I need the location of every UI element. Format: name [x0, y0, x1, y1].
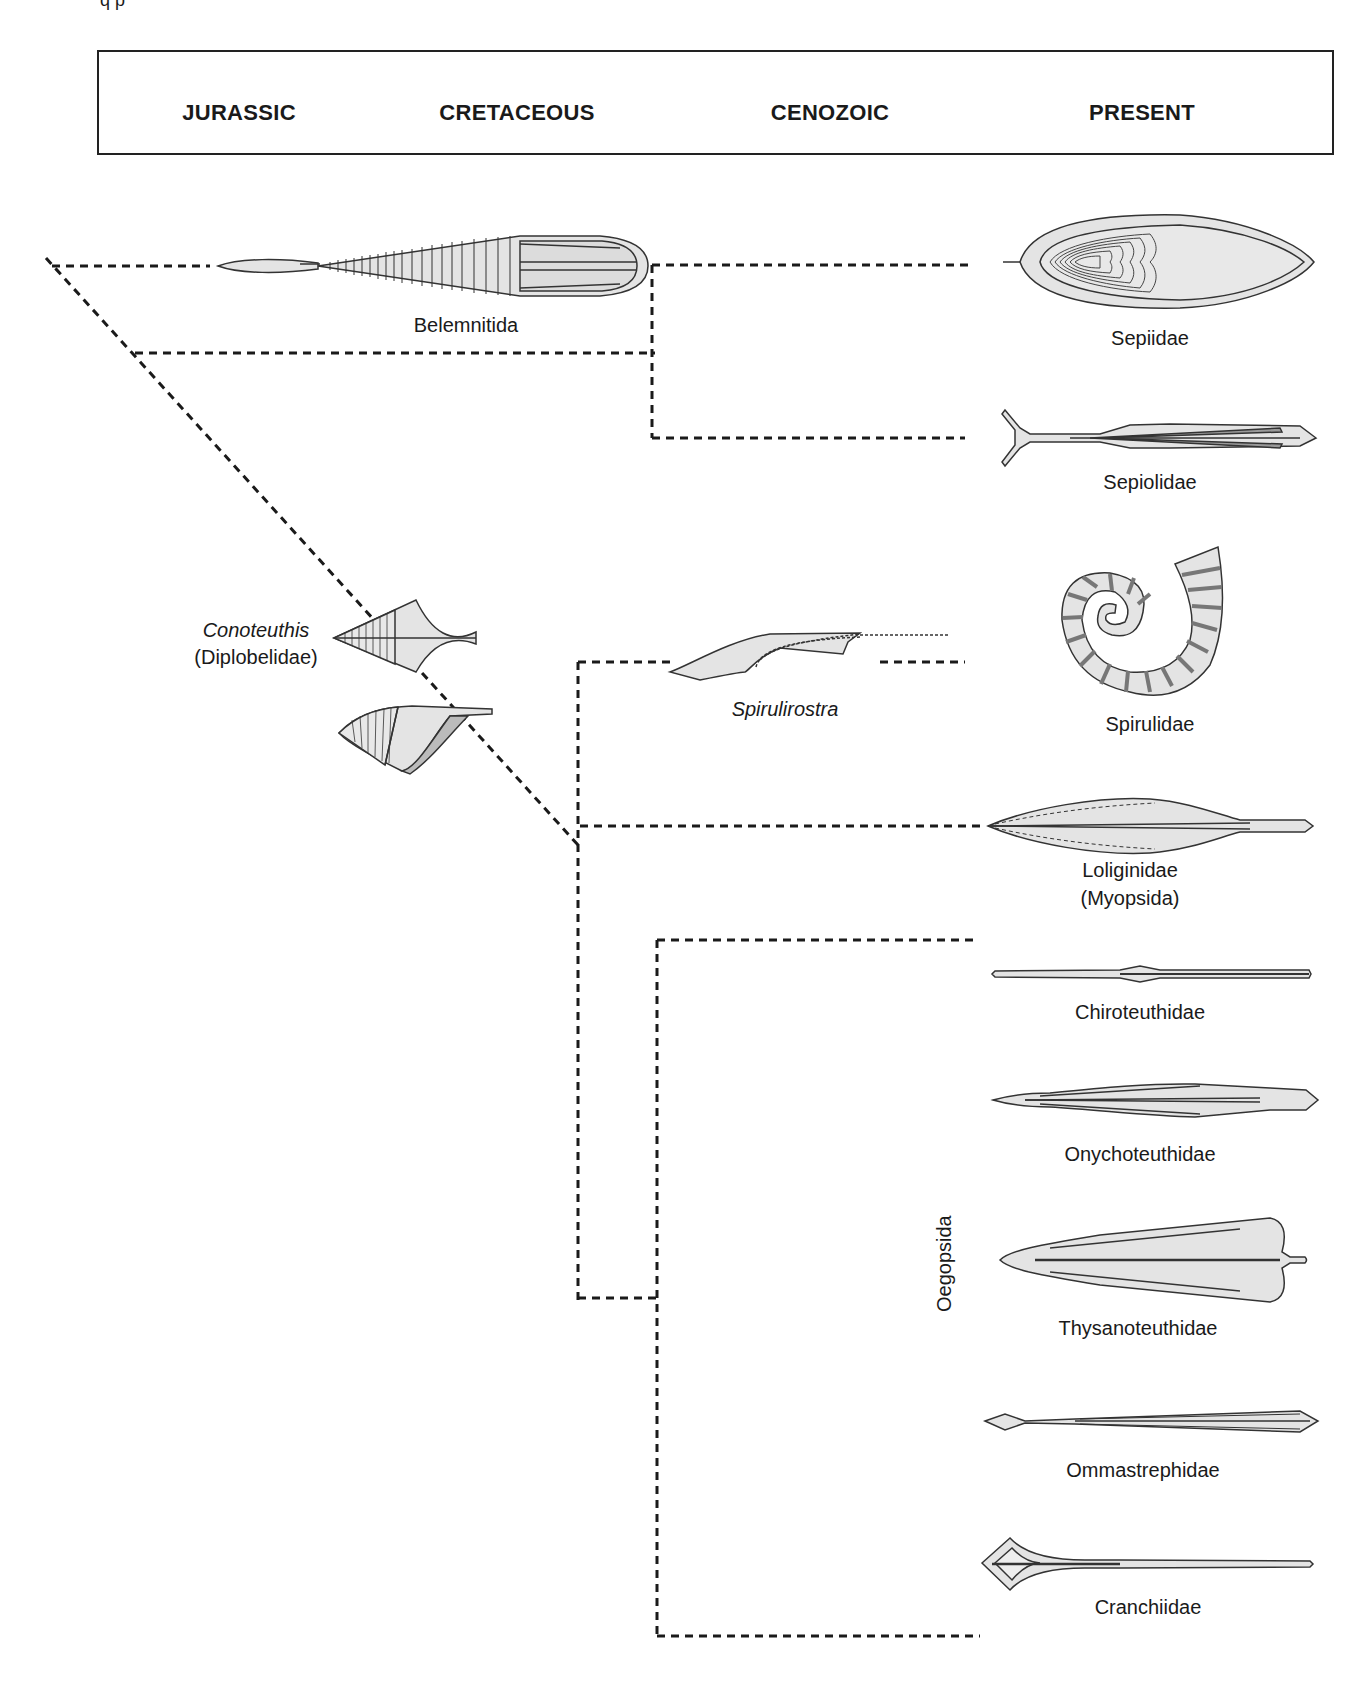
conoteuthis-illustration	[334, 600, 476, 672]
label-cranchiidae: Cranchiidae	[1095, 1595, 1202, 1620]
label-belemnitida: Belemnitida	[414, 313, 519, 338]
label-myopsida: (Myopsida)	[1081, 886, 1180, 911]
label-diplobelidae: (Diplobelidae)	[194, 645, 317, 670]
diplobelid-illustration	[339, 706, 492, 774]
label-onychoteuthidae: Onychoteuthidae	[1064, 1142, 1215, 1167]
cranchiidae-illustration	[982, 1538, 1313, 1590]
label-thysanoteuthidae: Thysanoteuthidae	[1058, 1316, 1217, 1341]
thysanoteuthidae-illustration	[1000, 1218, 1307, 1302]
sepiidae-illustration	[1003, 215, 1314, 308]
spirulirostra-illustration	[670, 633, 950, 680]
label-conoteuthis: Conoteuthis	[203, 618, 310, 643]
label-sepiolidae: Sepiolidae	[1103, 470, 1196, 495]
label-loliginidae: Loliginidae	[1082, 858, 1178, 883]
label-spirulidae: Spirulidae	[1106, 712, 1195, 737]
label-oegopsida: Oegopsida	[933, 1215, 956, 1312]
phylogeny-diagram	[0, 0, 1371, 1706]
label-sepiidae: Sepiidae	[1111, 326, 1189, 351]
onychoteuthidae-illustration	[993, 1084, 1318, 1117]
belemnitida-illustration	[218, 236, 648, 296]
label-chiroteuthidae: Chiroteuthidae	[1075, 1000, 1205, 1025]
loliginidae-illustration	[988, 799, 1313, 854]
ommastrephidae-illustration	[985, 1411, 1318, 1432]
spirulidae-illustration	[1062, 547, 1223, 695]
phylogeny-branches	[46, 258, 980, 1636]
chiroteuthidae-illustration	[992, 966, 1311, 982]
label-ommastrephidae: Ommastrephidae	[1066, 1458, 1219, 1483]
sepiolidae-illustration	[1002, 410, 1316, 466]
label-spirulirostra: Spirulirostra	[732, 697, 839, 722]
